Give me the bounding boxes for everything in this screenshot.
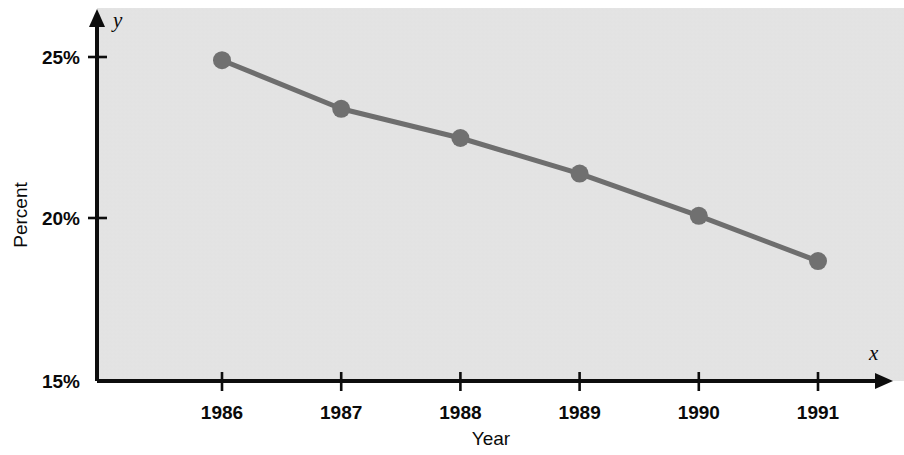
data-point-1989 — [571, 165, 589, 183]
x-axis-title: Year — [472, 428, 511, 449]
y-axis-title: Percent — [10, 182, 31, 248]
chart-canvas: 25% 20% 15% 1986 1987 1988 1989 1990 199… — [0, 0, 904, 455]
data-point-1988 — [451, 129, 469, 147]
y-axis-variable-label: y — [111, 8, 123, 32]
x-axis-variable-label: x — [868, 341, 879, 365]
data-point-1987 — [332, 100, 350, 118]
x-tick-label-1989: 1989 — [558, 402, 600, 423]
x-tick-label-1991: 1991 — [797, 402, 840, 423]
data-point-1990 — [690, 207, 708, 225]
data-point-1986 — [213, 51, 231, 69]
x-tick-label-1986: 1986 — [201, 402, 243, 423]
x-tick-label-1987: 1987 — [320, 402, 362, 423]
y-tick-label-15: 15% — [42, 371, 80, 392]
y-tick-label-20: 20% — [42, 208, 80, 229]
x-tick-label-1988: 1988 — [439, 402, 481, 423]
data-point-1991 — [809, 252, 827, 270]
y-tick-label-25: 25% — [42, 47, 80, 68]
x-tick-label-1990: 1990 — [678, 402, 720, 423]
line-chart-figure: 25% 20% 15% 1986 1987 1988 1989 1990 199… — [0, 0, 904, 455]
